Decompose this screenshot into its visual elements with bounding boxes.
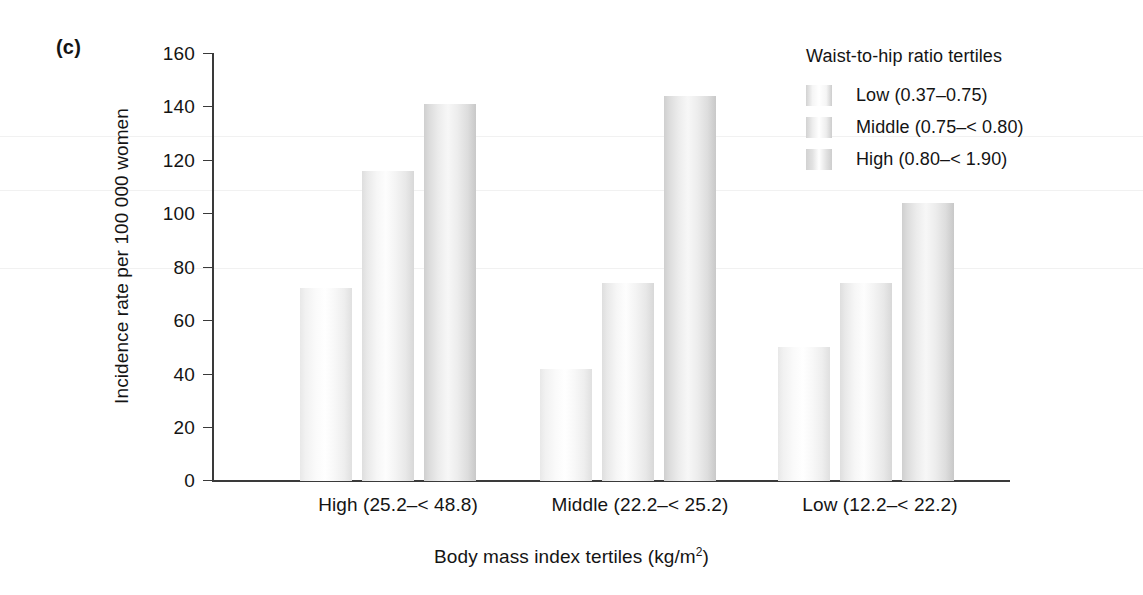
legend-label-high: High (0.80–< 1.90) <box>856 149 1007 170</box>
bar-low-bmi-high-whr[interactable] <box>902 203 954 481</box>
legend-swatch-middle-icon <box>806 117 832 138</box>
bar-high-bmi-low-whr[interactable] <box>300 288 352 481</box>
legend-item-middle[interactable]: Middle (0.75–< 0.80) <box>806 111 1126 143</box>
legend-item-high[interactable]: High (0.80–< 1.90) <box>806 143 1126 175</box>
bar-high-bmi-middle-whr[interactable] <box>362 171 414 481</box>
figure-panel-c: (c) Incidence rate per 100 000 women 160… <box>0 0 1143 595</box>
x-tick-label-low-bmi: Low (12.2–< 22.2) <box>765 494 995 516</box>
legend: Waist-to-hip ratio tertiles Low (0.37–0.… <box>806 46 1126 175</box>
x-tick-label-high-bmi: High (25.2–< 48.8) <box>283 494 513 516</box>
bar-low-bmi-low-whr[interactable] <box>778 347 830 481</box>
bar-middle-bmi-low-whr[interactable] <box>540 369 592 481</box>
bar-high-bmi-high-whr[interactable] <box>424 104 476 481</box>
legend-swatch-high-icon <box>806 149 832 170</box>
legend-title: Waist-to-hip ratio tertiles <box>806 46 1126 67</box>
x-axis-title: Body mass index tertiles (kg/m2) <box>0 545 1143 568</box>
bar-group-middle-bmi <box>540 0 735 481</box>
legend-label-low: Low (0.37–0.75) <box>856 85 988 106</box>
bar-group-high-bmi <box>300 0 495 481</box>
legend-item-low[interactable]: Low (0.37–0.75) <box>806 79 1126 111</box>
x-axis-title-tail: ) <box>703 546 709 567</box>
x-axis-title-base: Body mass index tertiles (kg/m <box>434 546 696 567</box>
bar-low-bmi-middle-whr[interactable] <box>840 283 892 481</box>
bar-middle-bmi-high-whr[interactable] <box>664 96 716 481</box>
bar-middle-bmi-middle-whr[interactable] <box>602 283 654 481</box>
x-axis-title-superscript: 2 <box>696 545 703 559</box>
legend-swatch-low-icon <box>806 85 832 106</box>
x-tick-label-middle-bmi: Middle (22.2–< 25.2) <box>520 494 760 516</box>
legend-label-middle: Middle (0.75–< 0.80) <box>856 117 1024 138</box>
